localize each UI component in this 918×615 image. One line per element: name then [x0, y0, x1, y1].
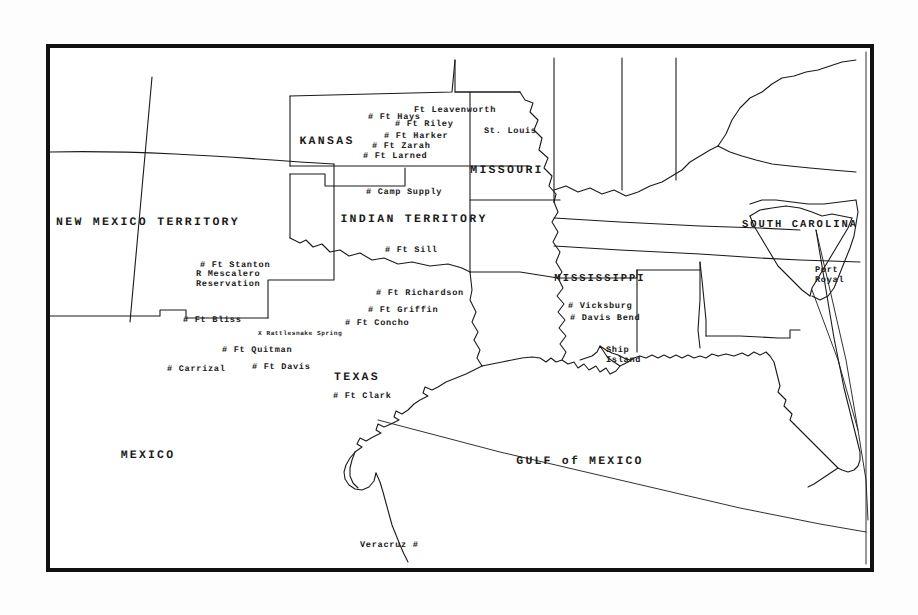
place-label-st-louis: St. Louis: [484, 126, 537, 136]
region-label-new-mexico-territory: NEW MEXICO TERRITORY: [56, 216, 240, 229]
place-label-ft-riley: # Ft Riley: [395, 119, 454, 129]
place-label-ft-larned: # Ft Larned: [363, 151, 427, 161]
region-label-indian-territory: INDIAN TERRITORY: [340, 213, 487, 226]
mescalero-line-1: R Mescalero: [196, 269, 260, 279]
place-label-ft-davis: # Ft Davis: [252, 362, 311, 372]
place-label-camp-supply: # Camp Supply: [366, 187, 442, 197]
place-label-ft-zarah: # Ft Zarah: [372, 141, 431, 151]
region-label-mississippi: MISSISSIPPI: [554, 273, 645, 285]
place-label-ship-island: Ship Island: [606, 345, 641, 365]
place-label-ft-quitman: # Ft Quitman: [222, 345, 292, 355]
place-label-carrizal: # Carrizal: [167, 364, 226, 374]
historical-map: NEW MEXICO TERRITORY KANSAS MISSOURI IND…: [0, 0, 918, 615]
region-label-texas: TEXAS: [334, 371, 380, 384]
place-label-vicksburg: # Vicksburg: [568, 301, 632, 311]
place-label-port-royal: Port Royal: [815, 265, 844, 285]
place-label-davis-bend: # Davis Bend: [570, 313, 640, 323]
place-label-rattlesnake-spring: X Rattlesnake Spring: [258, 330, 342, 337]
place-label-ft-concho: # Ft Concho: [345, 318, 409, 328]
region-label-gulf-of-mexico: GULF of MEXICO: [516, 455, 643, 468]
place-label-ft-griffin: # Ft Griffin: [368, 305, 438, 315]
ship-island-line-1: Ship: [606, 345, 641, 355]
region-label-south-carolina: SOUTH CAROLINA: [742, 219, 858, 231]
port-royal-line-1: Port: [815, 265, 844, 275]
place-label-ft-leavenworth: Ft Leavenworth: [414, 105, 496, 115]
region-label-kansas: KANSAS: [299, 135, 354, 148]
place-label-ft-harker: # Ft Harker: [384, 131, 448, 141]
place-label-veracruz: Veracruz #: [360, 540, 419, 550]
place-label-ft-sill: # Ft Sill: [385, 245, 438, 255]
place-label-ft-clark: # Ft Clark: [333, 391, 392, 401]
region-label-mexico: MEXICO: [121, 449, 176, 462]
region-label-missouri: MISSOURI: [470, 164, 544, 177]
place-label-ft-bliss: # Ft Bliss: [183, 315, 242, 325]
place-label-mescalero-reservation: R Mescalero Reservation: [196, 269, 260, 289]
ship-island-line-2: Island: [606, 355, 641, 365]
map-border-frame: [46, 44, 874, 572]
place-label-ft-richardson: # Ft Richardson: [376, 288, 464, 298]
port-royal-line-2: Royal: [815, 275, 844, 285]
mescalero-line-2: Reservation: [196, 279, 260, 289]
